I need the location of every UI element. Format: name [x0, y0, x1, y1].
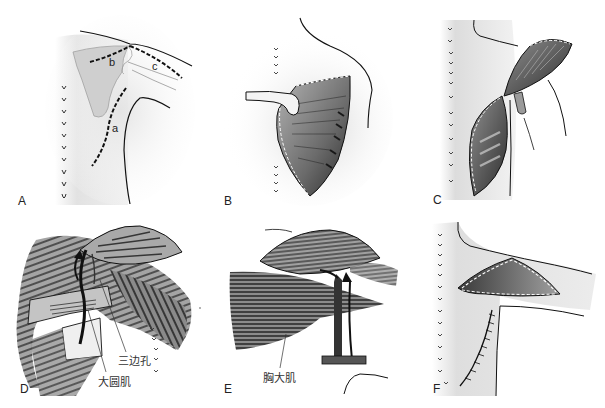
surgical-illustration-figure: a b c A — [0, 0, 605, 408]
panel-c: C — [400, 0, 605, 210]
label-triangular-space: 三边孔 — [118, 352, 151, 368]
label-teres-major: 大圆肌 — [98, 373, 131, 389]
panel-c-drawing — [400, 0, 605, 210]
panel-label-e: E — [224, 382, 232, 396]
incision-label-b: b — [109, 56, 115, 68]
panel-a-drawing — [0, 0, 200, 210]
incision-label-c: c — [152, 60, 158, 72]
panel-label-f: F — [433, 382, 440, 396]
panel-f-drawing — [400, 210, 605, 408]
panel-label-a: A — [18, 194, 26, 208]
label-pectoralis-major: 胸大肌 — [263, 369, 296, 385]
panel-label-c: C — [433, 193, 442, 207]
panel-d: 三边孔 大圆肌 D — [0, 210, 200, 408]
panel-e: 胸大肌 E — [200, 210, 400, 408]
incision-label-a: a — [112, 122, 118, 134]
panel-b-drawing — [200, 0, 400, 210]
panel-b: B — [200, 0, 400, 210]
panel-a: a b c A — [0, 0, 200, 210]
panel-f: F — [400, 210, 605, 408]
panel-e-drawing — [200, 210, 400, 408]
panel-label-d: D — [20, 382, 29, 396]
panel-label-b: B — [224, 194, 232, 208]
